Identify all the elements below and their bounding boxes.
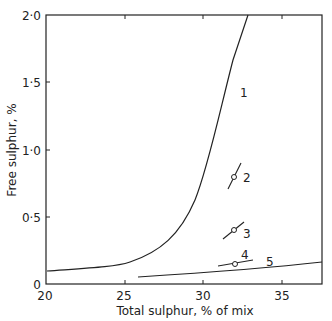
x-tick-label: 30 [195, 289, 210, 303]
x-tick-label: 35 [274, 289, 289, 303]
curve-label-3: 3 [243, 227, 251, 241]
curve-label-4: 4 [241, 248, 249, 262]
x-axis-title: Total sulphur, % of mix [115, 304, 253, 318]
curve-label-5: 5 [266, 255, 274, 269]
point-2 [232, 175, 237, 180]
curve-label-1: 1 [240, 86, 248, 100]
plot-frame [46, 15, 322, 284]
y-tick-label: 2·0 [22, 9, 41, 23]
y-tick-label: 1·5 [22, 76, 41, 90]
curve-label-2: 2 [243, 171, 251, 185]
x-ticks [125, 15, 282, 284]
curve-1 [47, 15, 248, 271]
point-4 [233, 262, 238, 267]
y-tick-label: 0·5 [22, 211, 41, 225]
x-tick-label: 25 [116, 289, 131, 303]
chart: 20 25 30 35 0 0·5 1·0 1·5 2·0 Total sulp… [0, 0, 332, 321]
y-axis-title: Free sulphur, % [5, 103, 19, 196]
y-tick-label: 0 [33, 278, 41, 292]
y-tick-label: 1·0 [22, 144, 41, 158]
point-3 [232, 228, 237, 233]
